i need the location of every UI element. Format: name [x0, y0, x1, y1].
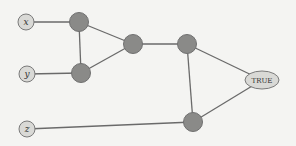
node-g3	[124, 35, 143, 54]
edge-g4-g5	[187, 44, 193, 122]
node-y: y	[19, 66, 35, 82]
nodes-layer: xyzTRUE	[18, 13, 279, 138]
node-g2	[72, 64, 91, 83]
node-label: y	[23, 69, 30, 79]
diagram-svg: xyzTRUE	[0, 0, 296, 146]
node-label: x	[23, 17, 28, 27]
gate-node-shape	[70, 13, 89, 32]
gate-node-shape	[178, 35, 197, 54]
gate-node-shape	[72, 64, 91, 83]
circuit-diagram: xyzTRUE	[0, 0, 296, 146]
node-label: TRUE	[252, 77, 273, 85]
node-g4	[178, 35, 197, 54]
node-label: z	[24, 124, 30, 134]
gate-node-shape	[184, 113, 203, 132]
node-g1	[70, 13, 89, 32]
node-x: x	[18, 14, 34, 30]
edges-layer	[26, 22, 262, 129]
edge-z-g5	[27, 122, 193, 129]
node-z: z	[19, 121, 35, 137]
node-g5	[184, 113, 203, 132]
node-out: TRUE	[245, 71, 279, 89]
gate-node-shape	[124, 35, 143, 54]
